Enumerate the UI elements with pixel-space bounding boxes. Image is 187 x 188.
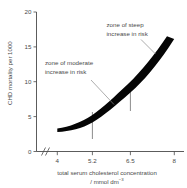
x-axis-title-units: / mmol dm — [90, 178, 118, 185]
x-axis-title-line2: / mmol dm−3 — [90, 177, 124, 185]
y-tick-label-5: 5 — [28, 113, 32, 120]
y-tick-label-15: 15 — [25, 43, 32, 50]
x-tick-label-6-5: 6.5 — [126, 157, 135, 164]
leader-line-moderate — [91, 80, 114, 105]
x-axis-title-line1: total serum cholesterol concentration — [57, 169, 157, 176]
x-axis-title-exponent: −3 — [119, 177, 125, 182]
leader-line-steep — [141, 40, 156, 55]
chd-mortality-chart: 0 5 10 15 20 4 5.2 6.5 8 CHD mortality p… — [0, 0, 187, 188]
x-tick-label-4: 4 — [56, 157, 60, 164]
chart-canvas: 0 5 10 15 20 4 5.2 6.5 8 CHD mortality p… — [0, 0, 187, 188]
x-tick-label-5-2: 5.2 — [88, 157, 97, 164]
annotation-moderate-line2: increase in risk — [45, 68, 87, 75]
annotation-moderate-line1: zone of moderate — [45, 59, 94, 66]
x-tick-label-8: 8 — [173, 157, 177, 164]
annotation-steep-line2: increase in risk — [107, 30, 149, 37]
y-tick-label-20: 20 — [25, 8, 32, 15]
y-tick-label-0: 0 — [28, 148, 32, 155]
data-curve — [57, 36, 174, 132]
annotation-steep-line1: zone of steep — [107, 21, 145, 28]
y-axis-title: CHD mortality per 1000 — [6, 41, 13, 105]
y-tick-label-10: 10 — [25, 78, 32, 85]
x-axis-ticks — [57, 152, 174, 156]
